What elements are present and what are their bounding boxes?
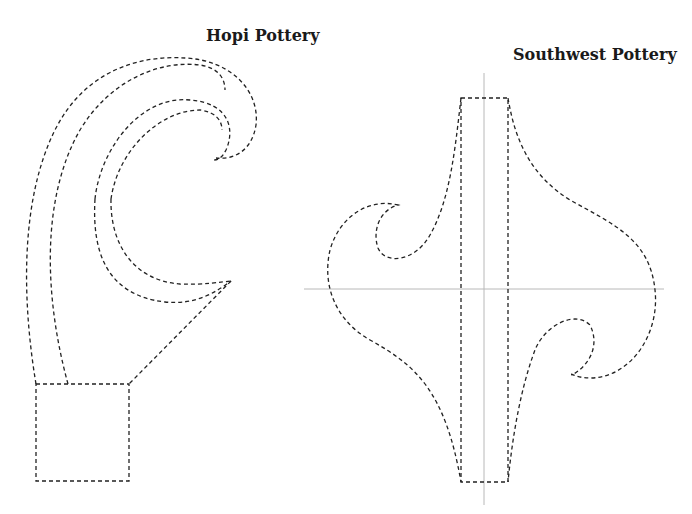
hopi-outer-curve [27, 58, 257, 384]
hopi-spiral-lower-b [111, 199, 231, 284]
pottery-diagram [0, 0, 692, 514]
hopi-inner-curve-a [95, 100, 230, 199]
hopi-diagonal [129, 281, 231, 384]
hopi-base-box [36, 384, 129, 481]
southwest-pottery-figure [304, 73, 664, 505]
southwest-right-lobe [508, 98, 656, 482]
hopi-spiral-lower-a [95, 199, 231, 302]
hopi-pottery-figure [27, 58, 257, 481]
southwest-left-lobe [328, 98, 461, 482]
hopi-inner-outer-curve [50, 64, 225, 384]
hopi-inner-curve-b [111, 110, 222, 199]
